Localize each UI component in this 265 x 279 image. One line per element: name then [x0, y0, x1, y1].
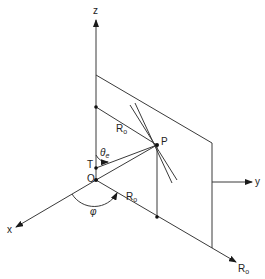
- point-t: [94, 166, 98, 170]
- r0-dot: [155, 215, 159, 219]
- phi-arc: [72, 193, 117, 206]
- upper-r0-line: [96, 107, 157, 145]
- t-label: T: [87, 159, 93, 170]
- geometry-diagram: z x Ro y Ro Ro P T O θe φ: [0, 0, 265, 279]
- theta-label: θe: [100, 147, 109, 159]
- r0-lower-label: Ro: [126, 191, 137, 203]
- r0-upper-label: Ro: [116, 123, 127, 135]
- z-label: z: [93, 5, 98, 16]
- o-label: O: [87, 173, 95, 184]
- y-label: y: [255, 176, 260, 187]
- p-label: P: [161, 136, 168, 147]
- x-label: x: [7, 224, 12, 235]
- x-axis: [16, 180, 96, 227]
- r0-axis: [96, 180, 236, 262]
- phi-label: φ: [90, 206, 97, 217]
- upper-z-dot: [94, 105, 98, 109]
- point-p: [155, 143, 159, 147]
- r0-axis-label: Ro: [238, 263, 249, 275]
